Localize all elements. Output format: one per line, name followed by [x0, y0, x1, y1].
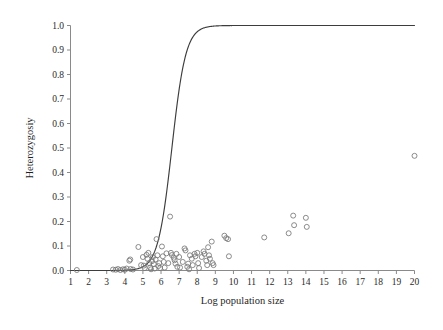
data-point — [190, 263, 195, 268]
data-point — [166, 261, 171, 266]
y-tick-label: 0.9 — [52, 45, 64, 55]
y-axis-title: Heterozygosiy — [24, 117, 35, 179]
x-tick-label: 9 — [213, 277, 218, 287]
axes-group — [67, 26, 415, 275]
data-point — [206, 245, 211, 250]
data-point — [196, 261, 201, 266]
x-tick-label: 17 — [355, 277, 365, 287]
y-tick-label: 0.6 — [52, 119, 64, 129]
x-tick-label: 13 — [283, 277, 293, 287]
data-point — [412, 153, 417, 158]
x-tick-label: 2 — [86, 277, 91, 287]
x-tick-label: 3 — [104, 277, 109, 287]
y-tick-label: 0.5 — [52, 143, 64, 153]
axis-labels-group: 0.00.10.20.30.40.50.60.70.80.91.01234567… — [24, 21, 420, 306]
x-tick-label: 14 — [301, 277, 311, 287]
x-tick-label: 18 — [374, 277, 384, 287]
data-point — [304, 224, 309, 229]
x-tick-label: 15 — [319, 277, 329, 287]
x-tick-label: 5 — [141, 277, 146, 287]
figure-container: 0.00.10.20.30.40.50.60.70.80.91.01234567… — [0, 0, 443, 330]
data-point — [209, 239, 214, 244]
y-tick-label: 0.0 — [52, 266, 64, 276]
data-point — [199, 255, 204, 260]
data-point — [226, 237, 231, 242]
x-tick-label: 1 — [68, 277, 73, 287]
x-tick-label: 11 — [247, 277, 256, 287]
data-point — [136, 244, 141, 249]
data-point — [303, 215, 308, 220]
x-tick-label: 8 — [195, 277, 200, 287]
data-point — [177, 255, 182, 260]
data-point — [155, 253, 160, 258]
data-point — [128, 257, 133, 262]
x-tick-label: 7 — [177, 277, 182, 287]
y-tick-label: 0.2 — [52, 217, 64, 227]
data-point — [197, 266, 202, 271]
y-tick-label: 0.3 — [52, 192, 64, 202]
data-point — [292, 223, 297, 228]
fitted-logistic-curve — [71, 26, 415, 271]
x-tick-label: 10 — [229, 277, 239, 287]
x-tick-label: 19 — [392, 277, 402, 287]
data-points-group — [74, 153, 417, 272]
y-tick-label: 0.1 — [52, 241, 64, 251]
data-point — [291, 213, 296, 218]
data-point — [180, 259, 185, 264]
x-axis-title: Log population size — [201, 295, 285, 306]
y-tick-label: 0.8 — [52, 70, 64, 80]
data-point — [168, 214, 173, 219]
x-tick-label: 12 — [265, 277, 275, 287]
y-tick-label: 0.4 — [52, 168, 64, 178]
x-tick-label: 16 — [337, 277, 347, 287]
y-tick-label: 1.0 — [52, 21, 64, 31]
scatter-plot: 0.00.10.20.30.40.50.60.70.80.91.01234567… — [0, 0, 443, 330]
y-tick-label: 0.7 — [52, 94, 64, 104]
data-point — [262, 235, 267, 240]
x-tick-label: 4 — [122, 277, 127, 287]
x-tick-label: 20 — [410, 277, 420, 287]
fitted-curve-group — [71, 26, 415, 271]
data-point — [286, 231, 291, 236]
x-tick-label: 6 — [159, 277, 164, 287]
data-point — [159, 244, 164, 249]
data-point — [226, 254, 231, 259]
data-point — [174, 251, 179, 256]
data-point — [207, 253, 212, 258]
